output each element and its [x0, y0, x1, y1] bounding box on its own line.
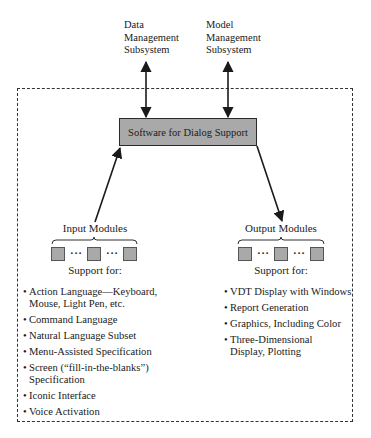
output-support-list: •VDT Display with Windows •Report Genera…: [224, 286, 351, 362]
list-item: •Natural Language Subset: [23, 330, 157, 342]
input-to-core-arrow: [95, 148, 120, 222]
list-item: •VDT Display with Windows: [224, 286, 351, 298]
bullet-icon: •: [23, 362, 27, 374]
bullet-icon: •: [224, 334, 228, 346]
bullet-icon: •: [23, 314, 27, 326]
list-item: •Graphics, Including Color: [224, 318, 351, 330]
bullet-icon: •: [23, 330, 27, 342]
bullet-icon: •: [23, 406, 27, 418]
bullet-icon: •: [224, 318, 228, 330]
list-item: •Screen (“fill-in-the-blanks”)Specificat…: [23, 362, 157, 386]
list-item: •Report Generation: [224, 302, 351, 314]
list-item: •Iconic Interface: [23, 390, 157, 402]
input-module-square: [123, 247, 137, 261]
output-brace: [238, 237, 324, 244]
output-module-square: [274, 247, 288, 261]
ellipsis: ···: [70, 246, 83, 260]
output-module-square: [238, 247, 252, 261]
bullet-icon: •: [23, 390, 27, 402]
output-support-label: Support for:: [230, 264, 332, 276]
ellipsis: ···: [257, 246, 270, 260]
bullet-icon: •: [23, 286, 27, 298]
input-module-square: [51, 247, 65, 261]
input-modules-title: Input Modules: [44, 222, 146, 234]
dialog-support-software-box: Software for Dialog Support: [119, 118, 257, 146]
input-brace: [52, 237, 137, 244]
output-module-square: [310, 247, 324, 261]
ellipsis: ···: [106, 246, 119, 260]
bullet-icon: •: [23, 346, 27, 358]
list-item: •Action Language—Keyboard,Mouse, Light P…: [23, 286, 157, 310]
bullet-icon: •: [224, 286, 228, 298]
list-item: •Command Language: [23, 314, 157, 326]
core-to-output-arrow: [257, 146, 282, 221]
output-modules-title: Output Modules: [230, 222, 332, 234]
bullet-icon: •: [224, 302, 228, 314]
list-item: •Voice Activation: [23, 406, 157, 418]
input-support-list: •Action Language—Keyboard,Mouse, Light P…: [23, 286, 157, 422]
input-module-square: [87, 247, 101, 261]
list-item: •Three-DimensionalDisplay, Plotting: [224, 334, 351, 358]
list-item: •Menu-Assisted Specification: [23, 346, 157, 358]
core-label: Software for Dialog Support: [128, 127, 248, 138]
ellipsis: ···: [293, 246, 306, 260]
input-support-label: Support for:: [44, 264, 146, 276]
